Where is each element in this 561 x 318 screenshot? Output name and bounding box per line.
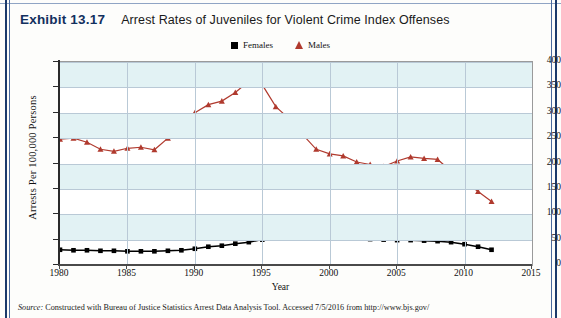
- data-point-triangle: [219, 98, 225, 104]
- gridline-horizontal: [60, 214, 532, 215]
- page-title: Arrest Rates of Juveniles for Violent Cr…: [121, 13, 449, 27]
- data-point-square: [206, 244, 211, 249]
- x-axis-tick-label: 2000: [319, 268, 338, 278]
- plot-band: [60, 164, 532, 189]
- page-top-rule: [0, 3, 561, 4]
- x-axis-line: [58, 264, 532, 266]
- x-axis-title: Year: [0, 282, 561, 292]
- data-point-square: [112, 248, 117, 253]
- plot-band: [60, 113, 532, 138]
- source-text: Constructed with Bureau of Justice Stati…: [43, 303, 429, 312]
- gridline-horizontal: [60, 138, 532, 139]
- exhibit-header: Exhibit 13.17 Arrest Rates of Juveniles …: [20, 10, 540, 28]
- legend-label-males: Males: [308, 40, 330, 50]
- data-point-square: [139, 249, 144, 254]
- x-axis-tick-label: 2005: [387, 268, 406, 278]
- chart-area: Arrests Per 100,000 Persons 050100150200…: [0, 56, 561, 296]
- y-axis-line: [58, 60, 60, 266]
- gridline-horizontal: [60, 62, 532, 63]
- gridline-vertical: [465, 62, 466, 265]
- gridline-vertical: [262, 62, 263, 265]
- gridline-horizontal: [60, 240, 532, 241]
- x-axis-tick-label: 2015: [522, 268, 541, 278]
- x-axis-tick-label: 1985: [117, 268, 136, 278]
- x-axis-tick-label: 1980: [50, 268, 69, 278]
- source-note: Source: Constructed with Bureau of Justi…: [18, 303, 548, 312]
- data-point-square: [179, 248, 184, 253]
- data-point-square: [233, 241, 238, 246]
- data-point-square: [476, 244, 481, 249]
- plot-area: [59, 61, 533, 266]
- legend-label-females: Females: [243, 40, 273, 50]
- y-axis-title: Arrests Per 100,000 Persons: [27, 63, 38, 253]
- gridline-vertical: [127, 62, 128, 265]
- data-point-square: [60, 247, 62, 252]
- x-axis-tick-label: 1995: [252, 268, 271, 278]
- plot-band: [60, 62, 532, 87]
- data-point-square: [166, 248, 171, 253]
- data-point-square: [220, 243, 225, 248]
- data-point-square: [98, 248, 103, 253]
- gridline-vertical: [397, 62, 398, 265]
- plot-band: [60, 214, 532, 239]
- gridline-vertical: [532, 62, 533, 265]
- legend-item-females: Females: [231, 40, 273, 50]
- data-point-square: [85, 248, 90, 253]
- exhibit-number: Exhibit 13.17: [20, 12, 105, 27]
- data-point-square: [152, 249, 157, 254]
- source-prefix: Source:: [18, 303, 43, 312]
- gridline-vertical: [195, 62, 196, 265]
- legend-item-males: Males: [295, 40, 330, 50]
- data-point-triangle: [273, 104, 279, 110]
- gridline-horizontal: [60, 113, 532, 114]
- gridline-horizontal: [60, 189, 532, 190]
- data-point-square: [71, 248, 76, 253]
- x-axis-tick-label: 2010: [454, 268, 473, 278]
- chart-legend: Females Males: [0, 40, 561, 50]
- data-point-square: [489, 247, 494, 252]
- gridline-horizontal: [60, 87, 532, 88]
- exhibit-page: Exhibit 13.17 Arrest Rates of Juveniles …: [0, 0, 561, 318]
- gridline-vertical: [330, 62, 331, 265]
- x-axis-tick-label: 1990: [184, 268, 203, 278]
- gridline-horizontal: [60, 164, 532, 165]
- square-marker-icon: [231, 42, 238, 49]
- triangle-marker-icon: [295, 41, 303, 49]
